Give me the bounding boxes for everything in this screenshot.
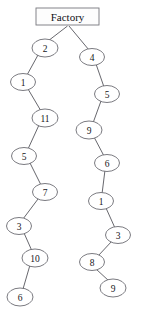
tree-node[interactable]: 2 [32, 39, 58, 57]
tree-edge [48, 26, 68, 41]
tree-edge [96, 269, 109, 281]
tree-edge [28, 89, 41, 111]
node-label: 7 [43, 188, 48, 198]
tree-node[interactable]: 9 [100, 279, 126, 297]
nodes-group: 211157310645961389 [7, 39, 131, 306]
tree-edge [94, 137, 104, 156]
tree-edge [98, 241, 112, 256]
node-label: 11 [40, 114, 49, 124]
tree-edge [24, 233, 32, 251]
tree-svg-canvas: 211157310645961389 Factory [0, 0, 145, 319]
tree-node[interactable]: 1 [11, 74, 36, 91]
node-label: 9 [87, 126, 92, 136]
tree-edge [23, 199, 38, 219]
node-label: 9 [111, 284, 116, 294]
tree-node[interactable]: 8 [80, 254, 105, 271]
node-label: 4 [90, 53, 95, 63]
tree-node[interactable]: 7 [33, 184, 58, 201]
tree-node[interactable]: 5 [95, 86, 120, 103]
tree-edge [23, 265, 30, 289]
tree-node[interactable]: 6 [95, 155, 120, 172]
node-label: 8 [90, 258, 95, 268]
node-label: 6 [18, 293, 23, 303]
tree-edge [93, 101, 101, 123]
tree-edge [96, 64, 104, 87]
tree-edge [102, 170, 105, 194]
factory-tree-diagram: 211157310645961389 Factory [0, 0, 145, 319]
node-label: 3 [116, 231, 121, 241]
node-label: 6 [105, 159, 110, 169]
root-node-group: Factory [36, 8, 99, 25]
root-label: Factory [51, 11, 85, 23]
node-label: 10 [30, 254, 40, 264]
node-label: 3 [17, 222, 22, 232]
tree-node[interactable]: 11 [32, 109, 58, 127]
tree-edge [69, 26, 89, 50]
tree-node[interactable]: 4 [80, 49, 105, 66]
tree-edge [28, 125, 39, 149]
tree-edge [27, 55, 38, 75]
tree-node[interactable]: 3 [106, 227, 131, 244]
root-node-factory[interactable]: Factory [36, 8, 99, 25]
node-label: 1 [21, 78, 26, 88]
node-label: 5 [105, 90, 110, 100]
tree-edge [106, 208, 115, 228]
node-label: 2 [43, 44, 48, 54]
tree-node[interactable]: 9 [76, 121, 102, 139]
tree-node[interactable]: 5 [12, 148, 37, 165]
node-label: 5 [22, 152, 27, 162]
tree-node[interactable]: 1 [89, 193, 114, 210]
tree-node[interactable]: 10 [22, 249, 48, 267]
tree-node[interactable]: 3 [7, 218, 32, 235]
tree-edge [30, 163, 41, 185]
tree-node[interactable]: 6 [7, 288, 33, 306]
node-label: 1 [99, 197, 104, 207]
